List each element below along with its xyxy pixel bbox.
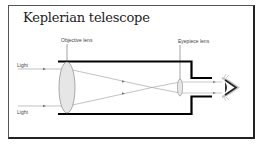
arrow-icon — [43, 68, 46, 70]
arrow-icon — [213, 92, 216, 94]
converging-ray-bottom — [68, 88, 152, 107]
arrow-icon — [43, 105, 46, 107]
tube-top-wall — [58, 62, 212, 79]
diverging-ray-bottom — [152, 82, 180, 88]
arrow-icon — [122, 92, 125, 95]
eyepiece-lens — [177, 79, 182, 96]
eye-icon — [222, 74, 238, 101]
arrow-icon — [213, 81, 216, 83]
arrow-icon — [122, 80, 125, 83]
objective-lens — [59, 62, 75, 113]
telescope-diagram — [0, 0, 262, 146]
diverging-ray-top — [152, 88, 180, 94]
converging-ray-top — [68, 69, 152, 88]
tube-bottom-wall — [58, 97, 212, 115]
